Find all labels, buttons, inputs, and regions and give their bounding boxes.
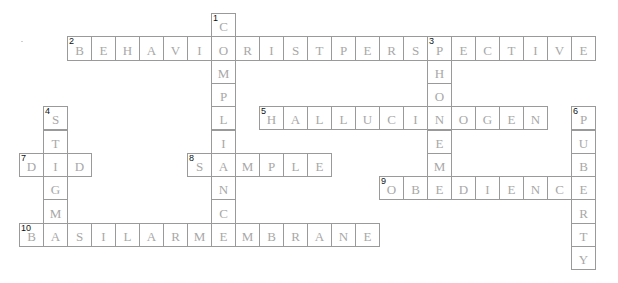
crossword-cell[interactable]: M bbox=[427, 153, 452, 177]
crossword-cell[interactable]: B bbox=[403, 176, 428, 200]
crossword-cell[interactable]: 8S bbox=[187, 153, 212, 177]
crossword-cell[interactable]: E bbox=[427, 176, 452, 200]
crossword-cell[interactable]: A bbox=[43, 223, 68, 247]
cell-letter: E bbox=[428, 137, 451, 151]
crossword-cell[interactable]: L bbox=[211, 106, 236, 130]
crossword-cell[interactable]: U bbox=[571, 130, 596, 154]
cell-letter: E bbox=[500, 113, 523, 127]
crossword-cell[interactable]: N bbox=[331, 223, 356, 247]
crossword-cell[interactable]: I bbox=[187, 36, 212, 60]
crossword-cell[interactable]: S bbox=[67, 223, 92, 247]
crossword-cell[interactable]: 9O bbox=[379, 176, 404, 200]
crossword-cell[interactable]: E bbox=[355, 223, 380, 247]
crossword-cell[interactable]: E bbox=[211, 223, 236, 247]
crossword-cell[interactable]: R bbox=[283, 223, 308, 247]
crossword-cell[interactable]: G bbox=[475, 106, 500, 130]
cell-letter: L bbox=[332, 113, 355, 127]
cell-letter: R bbox=[164, 230, 187, 244]
crossword-cell[interactable]: R bbox=[379, 36, 404, 60]
crossword-cell[interactable]: I bbox=[259, 36, 284, 60]
crossword-cell[interactable]: N bbox=[523, 106, 548, 130]
crossword-cell[interactable]: 10B bbox=[19, 223, 44, 247]
cell-letter: E bbox=[452, 44, 475, 58]
crossword-cell[interactable]: T bbox=[499, 36, 524, 60]
crossword-cell[interactable]: I bbox=[523, 36, 548, 60]
crossword-cell[interactable]: V bbox=[163, 36, 188, 60]
crossword-cell[interactable]: 1C bbox=[211, 13, 236, 37]
crossword-cell[interactable]: L bbox=[307, 106, 332, 130]
crossword-cell[interactable]: P bbox=[331, 36, 356, 60]
crossword-cell[interactable]: I bbox=[43, 153, 68, 177]
crossword-cell[interactable]: M bbox=[235, 223, 260, 247]
cell-letter: I bbox=[44, 160, 67, 174]
crossword-cell[interactable]: D bbox=[67, 153, 92, 177]
crossword-cell[interactable]: E bbox=[571, 176, 596, 200]
crossword-cell[interactable]: T bbox=[43, 130, 68, 154]
crossword-cell[interactable]: 2B bbox=[67, 36, 92, 60]
crossword-cell[interactable]: Y bbox=[571, 246, 596, 270]
cell-letter: V bbox=[164, 44, 187, 58]
crossword-cell[interactable]: U bbox=[355, 106, 380, 130]
crossword-cell[interactable]: R bbox=[571, 199, 596, 223]
crossword-cell[interactable]: E bbox=[355, 36, 380, 60]
cell-letter: E bbox=[572, 44, 595, 58]
crossword-cell[interactable]: E bbox=[307, 153, 332, 177]
crossword-cell[interactable]: C bbox=[211, 199, 236, 223]
crossword-cell[interactable]: D bbox=[451, 176, 476, 200]
cell-letter: M bbox=[188, 230, 211, 244]
crossword-cell[interactable]: S bbox=[283, 36, 308, 60]
crossword-cell[interactable]: 4S bbox=[43, 106, 68, 130]
crossword-cell[interactable]: B bbox=[571, 153, 596, 177]
crossword-cell[interactable]: L bbox=[283, 153, 308, 177]
crossword-cell[interactable]: N bbox=[211, 176, 236, 200]
crossword-cell[interactable]: 5H bbox=[259, 106, 284, 130]
crossword-cell[interactable]: M bbox=[235, 153, 260, 177]
crossword-cell[interactable]: M bbox=[187, 223, 212, 247]
crossword-cell[interactable]: G bbox=[43, 176, 68, 200]
crossword-cell[interactable]: O bbox=[427, 83, 452, 107]
crossword-cell[interactable]: L bbox=[115, 223, 140, 247]
cell-letter: P bbox=[428, 44, 451, 58]
crossword-cell[interactable]: R bbox=[235, 36, 260, 60]
crossword-cell[interactable]: T bbox=[571, 223, 596, 247]
crossword-cell[interactable]: E bbox=[499, 106, 524, 130]
crossword-cell[interactable]: P bbox=[211, 83, 236, 107]
crossword-cell[interactable]: C bbox=[379, 106, 404, 130]
crossword-cell[interactable]: 6P bbox=[571, 106, 596, 130]
crossword-cell[interactable]: H bbox=[115, 36, 140, 60]
crossword-cell[interactable]: V bbox=[547, 36, 572, 60]
crossword-cell[interactable]: I bbox=[475, 176, 500, 200]
crossword-cell[interactable]: E bbox=[427, 130, 452, 154]
crossword-cell[interactable]: M bbox=[43, 199, 68, 223]
crossword-cell[interactable]: M bbox=[211, 60, 236, 84]
crossword-cell[interactable]: N bbox=[523, 176, 548, 200]
crossword-cell[interactable]: L bbox=[331, 106, 356, 130]
crossword-cell[interactable]: T bbox=[307, 36, 332, 60]
crossword-cell[interactable]: E bbox=[91, 36, 116, 60]
crossword-cell[interactable]: A bbox=[139, 36, 164, 60]
crossword-cell[interactable]: R bbox=[163, 223, 188, 247]
crossword-cell[interactable]: A bbox=[283, 106, 308, 130]
crossword-cell[interactable]: I bbox=[403, 106, 428, 130]
crossword-cell[interactable]: O bbox=[451, 106, 476, 130]
crossword-cell[interactable]: N bbox=[427, 106, 452, 130]
crossword-cell[interactable]: H bbox=[427, 60, 452, 84]
crossword-cell[interactable]: B bbox=[259, 223, 284, 247]
crossword-cell[interactable]: 7D bbox=[19, 153, 44, 177]
crossword-cell[interactable]: A bbox=[211, 153, 236, 177]
crossword-cell[interactable]: A bbox=[307, 223, 332, 247]
crossword-cell[interactable]: O bbox=[211, 36, 236, 60]
crossword-cell[interactable]: E bbox=[451, 36, 476, 60]
crossword-cell[interactable]: P bbox=[259, 153, 284, 177]
crossword-cell[interactable]: A bbox=[139, 223, 164, 247]
crossword-cell[interactable]: C bbox=[547, 176, 572, 200]
crossword-cell[interactable]: E bbox=[499, 176, 524, 200]
crossword-cell[interactable]: I bbox=[211, 130, 236, 154]
cell-letter: R bbox=[380, 44, 403, 58]
crossword-cell[interactable]: I bbox=[91, 223, 116, 247]
crossword-cell[interactable]: 3P bbox=[427, 36, 452, 60]
cell-letter: U bbox=[356, 113, 379, 127]
crossword-cell[interactable]: C bbox=[475, 36, 500, 60]
crossword-cell[interactable]: S bbox=[403, 36, 428, 60]
crossword-cell[interactable]: E bbox=[571, 36, 596, 60]
